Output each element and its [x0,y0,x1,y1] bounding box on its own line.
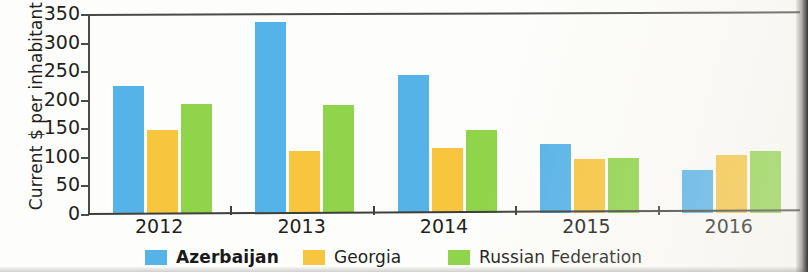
x-axis-tick-label-2012: 2012 [88,216,230,237]
y-axis-tick [81,128,89,130]
bar-russian-federation-2013 [323,105,354,213]
x-axis-category-separator [230,206,232,215]
bar-russian-federation-2012 [181,104,212,213]
chart-legend: AzerbaijanGeorgiaRussian Federation [88,245,800,269]
y-axis-tick-label: 50 [30,175,80,194]
chart-figure: Current $ per inhabitant 050100150200250… [0,0,808,272]
legend-label: Georgia [334,247,401,267]
y-axis-tick [81,157,89,159]
bar-georgia-2016 [716,155,747,213]
bar-fill [398,75,429,213]
bar-georgia-2014 [432,148,463,213]
bar-fill [466,130,497,213]
legend-swatch [448,250,470,265]
legend-label: Azerbaijan [176,247,279,267]
y-axis-tick [81,100,89,102]
bar-azerbaijan-2014 [398,75,429,213]
bar-russian-federation-2015 [608,158,639,213]
bar-azerbaijan-2015 [540,144,571,213]
legend-swatch [145,250,167,265]
bar-fill [255,22,286,213]
bar-russian-federation-2014 [466,130,497,213]
legend-item-georgia[interactable]: Georgia [303,247,401,267]
bars-layer [88,14,800,214]
x-axis-tick-label-2014: 2014 [373,216,515,237]
bar-russian-federation-2016 [750,151,781,213]
legend-label: Russian Federation [479,247,642,267]
y-axis-tick-label: 250 [30,61,80,80]
bar-fill [113,86,144,213]
y-axis-tick [81,14,89,16]
bar-fill [147,130,178,213]
y-axis-tick [81,185,89,187]
x-axis-category-separator [373,206,375,215]
y-axis-tick-label: 300 [30,33,80,52]
bar-fill [750,151,781,213]
x-axis-tick-labels: 20122013201420152016 [88,216,800,244]
y-axis-tick-label: 150 [30,118,80,137]
x-axis-tick-label-2016: 2016 [658,216,800,237]
bar-fill [540,144,571,213]
x-axis-category-separator [515,206,517,215]
y-axis-tick [81,43,89,45]
bar-georgia-2015 [574,159,605,213]
x-axis-tick-label-2015: 2015 [515,216,657,237]
plot-area [88,14,800,214]
bar-georgia-2012 [147,130,178,213]
legend-item-azerbaijan[interactable]: Azerbaijan [145,247,279,267]
bar-fill [323,105,354,213]
bar-fill [181,104,212,213]
y-axis-tick-labels: 050100150200250300350 [30,0,80,272]
y-axis-tick-label: 0 [30,204,80,223]
y-axis-tick-label: 100 [30,147,80,166]
legend-item-russian-federation[interactable]: Russian Federation [448,247,642,267]
bar-fill [574,159,605,213]
y-axis-tick-label: 350 [30,4,80,23]
legend-swatch [303,250,325,265]
bar-fill [608,158,639,213]
bar-georgia-2013 [289,151,320,213]
y-axis-tick [81,71,89,73]
bar-fill [682,170,713,213]
bar-fill [432,148,463,213]
y-axis-tick-label: 200 [30,90,80,109]
bar-azerbaijan-2012 [113,86,144,213]
bar-fill [716,155,747,213]
bar-azerbaijan-2013 [255,22,286,213]
x-axis-category-separator [658,206,660,215]
bar-azerbaijan-2016 [682,170,713,213]
x-axis-tick-label-2013: 2013 [230,216,372,237]
bar-fill [289,151,320,213]
